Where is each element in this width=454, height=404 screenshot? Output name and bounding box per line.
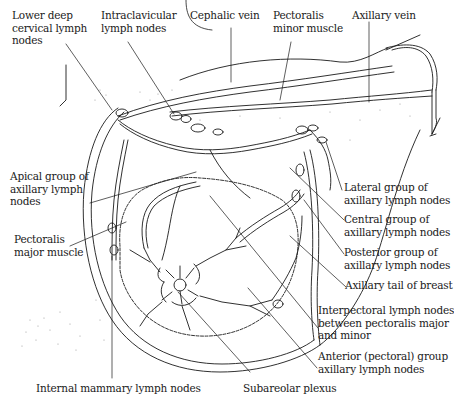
axillary-vein: [170, 90, 432, 112]
label-anterior-pectoral-group: Anterior (pectoral) group axillary lymph…: [318, 350, 448, 375]
pectoralis-minor-outline: [180, 48, 388, 80]
leader-axillary-tail: [290, 236, 346, 287]
leader-intraclavicular: [128, 42, 174, 114]
lymph-channel: [142, 182, 196, 248]
label-pectoralis-minor-muscle: Pectoralis minor muscle: [273, 9, 343, 34]
leader-lateral: [326, 142, 342, 190]
label-lower-deep-cervical-lymph-nodes: Lower deep cervical lymph nodes: [12, 9, 87, 47]
neck-outline: [60, 65, 66, 106]
nipple: [174, 279, 186, 291]
leader-subareolar: [178, 292, 250, 372]
label-central-group: Central group of axillary lymph nodes: [344, 213, 450, 238]
label-cephalic-vein: Cephalic vein: [190, 9, 260, 22]
label-internal-mammary-lymph-nodes: Internal mammary lymph nodes: [36, 382, 201, 395]
anterior-node: [273, 300, 283, 308]
central-node: [296, 164, 304, 176]
leader-lower-deep-cervical: [66, 44, 112, 110]
label-pectoralis-major-muscle: Pectoralis major muscle: [14, 233, 83, 258]
leader-posterior: [304, 200, 344, 254]
apical-node: [191, 124, 205, 132]
breast-outline: [83, 108, 320, 372]
posterior-node: [292, 190, 300, 202]
label-lateral-group: Lateral group of axillary lymph nodes: [344, 181, 450, 206]
label-intraclavicular-lymph-nodes: Intraclavicular lymph nodes: [101, 9, 176, 34]
label-posterior-group: Posterior group of axillary lymph nodes: [344, 246, 450, 271]
label-apical-group: Apical group of axillary lymph nodes: [10, 170, 89, 208]
label-axillary-tail: Axillary tail of breast: [345, 279, 452, 292]
label-axillary-vein: Axillary vein: [352, 9, 416, 22]
leader-anterior: [248, 288, 317, 368]
interpectoral-channel: [118, 120, 310, 150]
label-interpectoral-lymph-nodes: Interpectoral lymph nodes between pector…: [318, 304, 454, 342]
gland-outline: [120, 178, 298, 337]
arm-cuff-outer: [386, 45, 437, 90]
leader-pectoralis-minor: [280, 42, 291, 100]
leader-central: [290, 168, 344, 220]
label-subareolar-plexus: Subareolar plexus: [243, 382, 336, 395]
leader-apical: [90, 172, 196, 203]
